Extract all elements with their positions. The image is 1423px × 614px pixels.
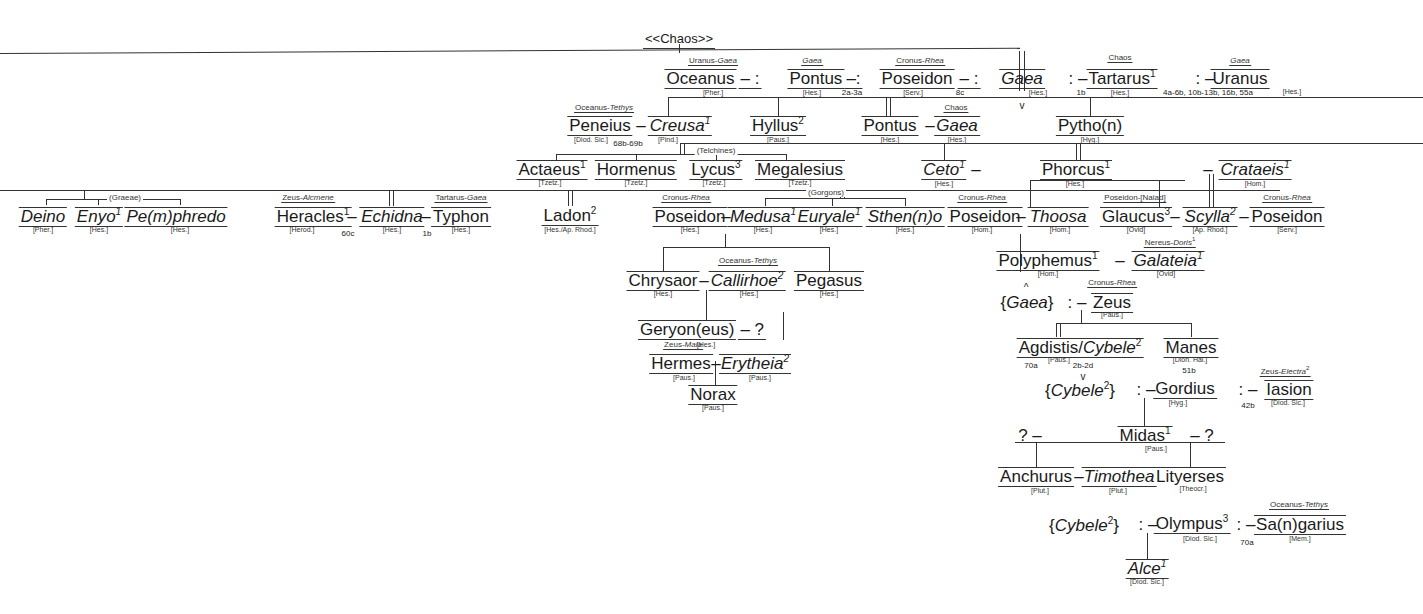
node-gaea-ref[interactable]: {Gaea} xyxy=(1001,293,1054,313)
node-enyo[interactable]: Enyo1 xyxy=(75,207,123,227)
source-citation: [Hes.] xyxy=(171,226,189,233)
node-sthenno[interactable]: Sthen(n)o xyxy=(866,207,945,227)
node-gordius[interactable]: Gordius xyxy=(1153,380,1217,399)
node-chrysaor[interactable]: Chrysaor xyxy=(627,271,700,291)
node-olympus[interactable]: Olympus3 xyxy=(1154,515,1231,534)
node-pontus[interactable]: Pontus–: xyxy=(787,69,862,89)
source-citation: [Hes.] xyxy=(1111,89,1129,96)
node-zeus[interactable]: Zeus xyxy=(1091,293,1133,313)
node-hyllus[interactable]: Hyllus2 xyxy=(750,116,806,136)
source-citation: [Hes.] xyxy=(881,136,899,143)
node-ladon[interactable]: Ladon2 xyxy=(542,207,599,226)
node-erytheia[interactable]: Erytheia2 xyxy=(719,342,791,374)
connector xyxy=(1056,323,1057,337)
source-citation: [Hes.] xyxy=(1283,88,1301,95)
node-ceto[interactable]: Ceto1 xyxy=(921,160,966,180)
parents-label: Tartarus-Gaea xyxy=(434,193,487,203)
node-tartarus[interactable]: Tartarus1 xyxy=(1087,69,1158,89)
source-citation: [Paus.] xyxy=(702,404,724,411)
node-pegasus[interactable]: Pegasus xyxy=(794,271,864,291)
connector xyxy=(663,247,664,271)
node-sangarius[interactable]: Sa(n)garius xyxy=(1254,515,1346,535)
node-agdistis-cybele[interactable]: Agdistis/Cybele2 xyxy=(1017,338,1144,358)
node-deino[interactable]: Deino xyxy=(19,207,67,227)
node-pontus-2[interactable]: Pontus xyxy=(862,116,919,136)
source-citation: [Hes.] xyxy=(681,226,699,233)
node-pemphredo[interactable]: Pe(m)phredo xyxy=(124,207,227,227)
source-citation: [Plut.] xyxy=(1109,487,1127,494)
connector xyxy=(556,154,786,155)
node-poseidon-3[interactable]: Poseidon xyxy=(948,207,1023,227)
connector xyxy=(944,143,945,160)
node-typhon[interactable]: Typhon xyxy=(431,207,491,227)
reference-number: 51b xyxy=(1182,366,1195,375)
node-timothea[interactable]: Timothea xyxy=(1082,467,1157,487)
node-actaeus[interactable]: Actaeus1 xyxy=(517,160,588,180)
node-iasion[interactable]: Iasion xyxy=(1264,380,1313,400)
ascent-arrow: ^ xyxy=(1024,282,1029,293)
source-citation: [Hes.] xyxy=(948,136,966,143)
node-galateia[interactable]: Galateia1 xyxy=(1132,251,1205,271)
parents-label: Oceanus-Tethys xyxy=(574,103,634,113)
connector-symbol: – xyxy=(1239,207,1248,227)
node-phorcus[interactable]: Phorcus1 xyxy=(1040,160,1112,180)
node-manes[interactable]: Manes xyxy=(1163,338,1218,358)
connector-symbol: : – xyxy=(1069,69,1088,89)
node-cybele-ref[interactable]: {Cybele2} xyxy=(1045,380,1115,401)
connector xyxy=(1147,533,1148,559)
connector xyxy=(98,199,99,205)
node-poseidon-4[interactable]: Poseidon xyxy=(1250,207,1325,227)
reference-number: 42b xyxy=(1241,401,1254,410)
reference-number: 4a-6b, 10b-13b, 16b, 55a xyxy=(1163,88,1253,97)
parents-label: Cronus-Rhea xyxy=(957,193,1007,203)
node-glaucus[interactable]: Glaucus3 xyxy=(1100,207,1172,227)
node-echidna[interactable]: Echidna xyxy=(359,207,424,227)
node-norax[interactable]: Norax xyxy=(688,385,737,405)
node-oceanus[interactable]: Oceanus– : xyxy=(665,69,762,89)
node-gaea-2[interactable]: Gaea xyxy=(934,116,980,136)
node-megalesius[interactable]: Megalesius xyxy=(755,160,845,180)
node-chaos[interactable]: <<Chaos>> xyxy=(643,29,715,49)
node-hormenus[interactable]: Hormenus xyxy=(595,160,677,180)
source-citation: [Hom.] xyxy=(1245,180,1266,187)
node-alce[interactable]: Alce1 xyxy=(1126,559,1169,579)
source-citation: [Paus.] xyxy=(1048,356,1070,363)
node-scylla[interactable]: Scylla2 xyxy=(1183,207,1238,227)
node-hermes[interactable]: Hermes xyxy=(649,342,713,374)
parents-label: Oceanus-Tethys xyxy=(1269,500,1329,510)
node-crataeis[interactable]: Crataeis1 xyxy=(1219,160,1292,180)
node-peneius[interactable]: Peneius xyxy=(567,116,632,136)
node-poseidon[interactable]: Poseidon– : xyxy=(880,69,981,89)
connector-symbol: – xyxy=(1115,251,1124,271)
source-citation: [Hyg.] xyxy=(1081,136,1099,143)
connector xyxy=(890,97,891,117)
connector xyxy=(393,190,394,206)
node-callirhoe[interactable]: Callirhoe2 xyxy=(709,271,786,291)
node-medusa[interactable]: Medusa1 xyxy=(728,207,798,227)
node-thoosa[interactable]: Thoosa xyxy=(1028,207,1089,227)
source-citation: [Hes.] xyxy=(740,290,758,297)
node-gaea[interactable]: Gaea xyxy=(999,69,1045,89)
node-lycus[interactable]: Lycus3 xyxy=(689,160,742,180)
node-heracles[interactable]: Heracles1 xyxy=(275,207,352,227)
node-geryon[interactable]: Geryon(eus)– ? xyxy=(638,320,766,340)
node-uranus[interactable]: Uranus xyxy=(1211,69,1270,89)
node-polyphemus[interactable]: Polyphemus1 xyxy=(996,251,1099,271)
node-anchurus[interactable]: Anchurus xyxy=(998,467,1074,487)
node-poseidon-2[interactable]: Poseidon xyxy=(653,207,728,227)
connector xyxy=(778,97,779,117)
source-citation: [Hes.] xyxy=(1066,180,1084,187)
node-cybele-ref-2[interactable]: {Cybele2} xyxy=(1049,515,1119,536)
node-midas[interactable]: Midas1 xyxy=(1118,426,1173,445)
connector xyxy=(706,290,707,320)
node-creusa[interactable]: Creusa1 xyxy=(648,116,712,136)
node-pytho[interactable]: Pytho(n) xyxy=(1056,116,1124,136)
source-citation: [Hom.] xyxy=(1038,270,1059,277)
node-euryale[interactable]: Euryale1 xyxy=(795,207,862,227)
parents-label: Cronus-Rhea xyxy=(1087,278,1137,288)
source-citation: [Hes.] xyxy=(90,226,108,233)
source-citation: [Tzetz.] xyxy=(789,179,812,186)
node-lityerses[interactable]: Lityerses xyxy=(1154,467,1226,486)
source-citation: [Serv.] xyxy=(903,89,923,96)
source-citation: [Serv.] xyxy=(1277,226,1297,233)
